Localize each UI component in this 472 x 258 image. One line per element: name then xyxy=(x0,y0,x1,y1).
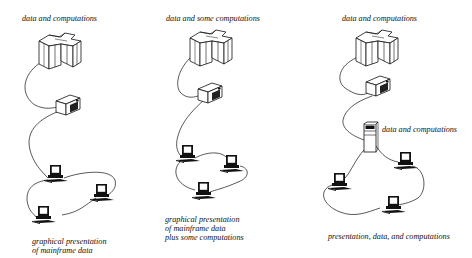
panel-2-caption-line-3: plus some computations xyxy=(165,233,244,243)
server-icon xyxy=(364,122,378,152)
panel-3-caption-line-1: presentation, data, and computations xyxy=(328,232,450,242)
mainframe-icon xyxy=(39,33,81,69)
workstation-icon xyxy=(328,173,352,191)
workstation-icon xyxy=(44,165,68,183)
panel-3-drawing xyxy=(324,30,424,215)
workstation-icon xyxy=(220,155,244,173)
panel-2-drawing xyxy=(176,30,247,200)
cable xyxy=(64,172,115,195)
controller-icon xyxy=(198,83,222,103)
cable xyxy=(25,63,58,108)
panel-1-drawing xyxy=(25,33,115,224)
mainframe-icon xyxy=(356,30,398,66)
cable xyxy=(62,198,96,215)
panel-1-top-label: data and computations xyxy=(22,14,97,24)
workstation-icon xyxy=(32,206,56,224)
panel-3-top-label: data and computations xyxy=(342,14,417,24)
controller-icon xyxy=(366,76,390,96)
controller-icon xyxy=(56,95,80,115)
mainframe-icon xyxy=(190,30,232,66)
panel-3-server-label: data and computations xyxy=(382,125,457,135)
panel-2-top-label: data and some computations xyxy=(166,14,260,24)
workstation-icon xyxy=(394,152,418,170)
panel-1-caption-line-2: of mainframe data xyxy=(32,246,93,256)
workstation-icon xyxy=(382,196,406,214)
figure-canvas: data and computations graphical presenta… xyxy=(0,0,472,258)
